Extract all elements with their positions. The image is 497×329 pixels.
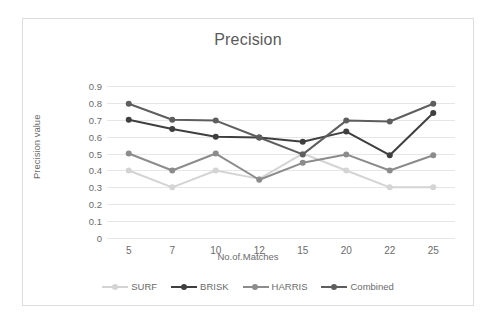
data-point	[300, 160, 306, 166]
data-point	[300, 151, 306, 157]
legend-dot	[181, 284, 187, 290]
y-tick-label: 0.6	[89, 131, 102, 142]
data-point	[126, 117, 132, 123]
y-axis-title: Precision value	[31, 87, 47, 207]
legend-label: Combined	[350, 281, 393, 292]
legend-label: BRISK	[200, 281, 229, 292]
y-tick-label: 0.5	[89, 148, 102, 159]
data-point	[169, 167, 175, 173]
y-tick-label: 0.9	[89, 81, 102, 92]
data-point	[126, 151, 132, 157]
chart-legend: SURFBRISKHARRISCombined	[23, 281, 473, 292]
data-point	[169, 184, 175, 190]
x-axis-title: No.of.Matches	[23, 251, 473, 262]
y-tick-label: 0.8	[89, 97, 102, 108]
legend-item-surf[interactable]: SURF	[102, 281, 157, 292]
legend-item-combined[interactable]: Combined	[321, 281, 393, 292]
data-point	[430, 152, 436, 158]
legend-swatch-icon	[321, 282, 347, 291]
data-point	[343, 129, 349, 135]
data-point	[343, 167, 349, 173]
legend-swatch-icon	[243, 282, 269, 291]
data-point	[213, 118, 219, 124]
data-point	[430, 184, 436, 190]
data-point	[300, 139, 306, 145]
y-tick-label: 0.7	[89, 114, 102, 125]
plot-area: 0.90.80.70.60.50.40.30.20.10 57101215202…	[107, 86, 455, 238]
data-point	[387, 118, 393, 124]
data-point	[343, 118, 349, 124]
legend-item-harris[interactable]: HARRIS	[243, 281, 308, 292]
data-point	[126, 167, 132, 173]
data-point	[430, 110, 436, 116]
legend-swatch-icon	[102, 282, 128, 291]
data-point	[126, 101, 132, 107]
series-layer	[107, 86, 455, 238]
chart-container: Precision Precision value 0.90.80.70.60.…	[22, 18, 474, 306]
gridline	[107, 238, 455, 239]
data-point	[387, 184, 393, 190]
legend-label: SURF	[131, 281, 157, 292]
data-point	[343, 151, 349, 157]
y-tick-label: 0.2	[89, 199, 102, 210]
legend-dot	[112, 284, 118, 290]
data-point	[256, 135, 262, 141]
legend-dot	[252, 284, 258, 290]
data-point	[430, 101, 436, 107]
data-point	[256, 177, 262, 183]
data-point	[213, 151, 219, 157]
legend-swatch-icon	[171, 282, 197, 291]
data-point	[169, 117, 175, 123]
y-tick-label: 0	[97, 233, 102, 244]
data-point	[169, 126, 175, 132]
legend-item-brisk[interactable]: BRISK	[171, 281, 229, 292]
legend-dot	[331, 284, 337, 290]
y-tick-label: 0.3	[89, 182, 102, 193]
y-tick-label: 0.1	[89, 216, 102, 227]
data-point	[387, 167, 393, 173]
chart-title: Precision	[23, 31, 473, 49]
data-point	[213, 167, 219, 173]
data-point	[387, 152, 393, 158]
data-point	[213, 134, 219, 140]
legend-label: HARRIS	[272, 281, 308, 292]
y-tick-label: 0.4	[89, 165, 102, 176]
